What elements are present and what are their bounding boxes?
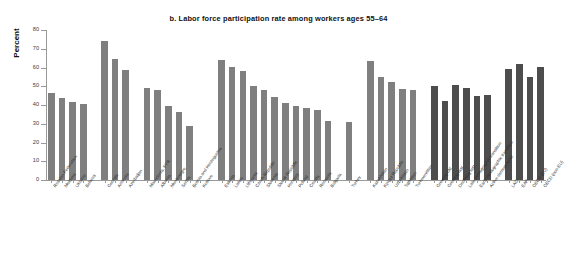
x-tick xyxy=(317,180,318,183)
x-tick xyxy=(296,180,297,183)
bar-belarus xyxy=(80,104,87,180)
bar-latvia xyxy=(229,67,236,180)
y-tick-label-40: 40 xyxy=(22,102,39,108)
bar-uzbekistan xyxy=(388,82,395,180)
x-tick xyxy=(413,180,414,183)
bar-turkey xyxy=(346,122,353,180)
x-tick xyxy=(158,180,159,183)
x-tick xyxy=(51,180,52,183)
bar-oecd-non-eu xyxy=(537,67,544,180)
plot-area xyxy=(46,30,546,180)
x-tick xyxy=(349,180,350,183)
x-tick xyxy=(179,180,180,183)
x-tick xyxy=(370,180,371,183)
x-tick xyxy=(190,180,191,183)
x-tick xyxy=(519,180,520,183)
x-tick xyxy=(232,180,233,183)
bar-estonia xyxy=(218,60,225,180)
bar-russian-federation xyxy=(48,93,55,180)
x-tick xyxy=(243,180,244,183)
x-tick xyxy=(275,180,276,183)
bar-kazakhstan xyxy=(367,61,374,180)
x-tick xyxy=(530,180,531,183)
bar-azerbaijan xyxy=(122,70,129,180)
bar-late-demographic-transition xyxy=(463,88,470,180)
x-tick xyxy=(509,180,510,183)
x-tick xyxy=(381,180,382,183)
x-tick xyxy=(541,180,542,183)
x-tick xyxy=(200,180,201,183)
x-tick xyxy=(62,180,63,183)
x-tick xyxy=(456,180,457,183)
x-axis-label: LAC xyxy=(511,179,520,189)
x-tick xyxy=(402,180,403,183)
x-tick xyxy=(487,180,488,183)
x-tick xyxy=(105,180,106,183)
x-tick xyxy=(253,180,254,183)
x-axis-label: EAP xyxy=(521,179,530,189)
bar-eap xyxy=(516,64,523,180)
x-tick xyxy=(115,180,116,183)
y-tick-label-50: 50 xyxy=(22,83,39,89)
x-tick xyxy=(147,180,148,183)
bar-turkmenistan xyxy=(410,90,417,180)
y-tick-label-60: 60 xyxy=(22,65,39,71)
y-tick-label-0: 0 xyxy=(22,177,39,183)
y-tick-0 xyxy=(41,180,46,181)
bar-georgia xyxy=(101,41,108,180)
bar-declining-fast xyxy=(452,85,459,180)
bar-macedonia-fyr xyxy=(144,88,151,180)
y-tick-label-70: 70 xyxy=(22,46,39,52)
x-tick xyxy=(264,180,265,183)
x-tick xyxy=(328,180,329,183)
x-tick xyxy=(222,180,223,183)
y-axis-label: Percent xyxy=(12,8,21,78)
x-tick xyxy=(466,180,467,183)
y-tick-label-10: 10 xyxy=(22,158,39,164)
bar-czech-republic xyxy=(250,86,257,180)
bar-kyrgyz-republic xyxy=(378,77,385,181)
x-tick xyxy=(307,180,308,183)
x-tick xyxy=(477,180,478,183)
y-tick-label-30: 30 xyxy=(22,121,39,127)
bar-bosnia-and-herzegovina xyxy=(186,126,193,180)
bar-croatia xyxy=(303,108,310,180)
x-tick xyxy=(168,180,169,183)
x-tick xyxy=(83,180,84,183)
x-tick xyxy=(392,180,393,183)
x-tick xyxy=(126,180,127,183)
x-tick xyxy=(73,180,74,183)
bar-lithuania xyxy=(240,71,247,180)
bar-romania xyxy=(314,110,321,180)
bar-oecd-eu xyxy=(527,77,534,181)
chart-title: b. Labor force participation rate among … xyxy=(0,14,557,23)
x-tick xyxy=(285,180,286,183)
x-tick xyxy=(434,180,435,183)
bar-armenia xyxy=(112,59,119,180)
y-tick-label-80: 80 xyxy=(22,27,39,33)
x-tick xyxy=(445,180,446,183)
y-tick-label-20: 20 xyxy=(22,140,39,146)
